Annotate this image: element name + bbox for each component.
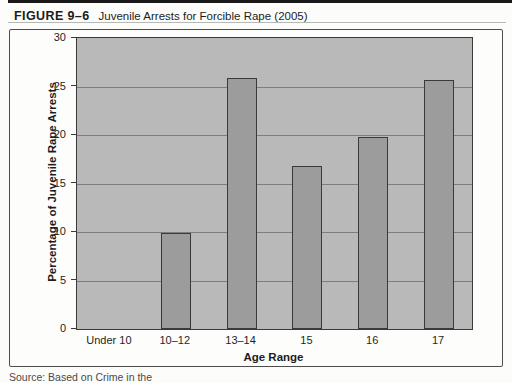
bar-10–12 [161, 233, 191, 329]
x-tick-label: 17 [405, 334, 471, 347]
plot-area [76, 37, 473, 330]
y-tick-mark [71, 279, 76, 280]
y-tick-mark [71, 37, 76, 38]
bar-13–14 [227, 78, 257, 329]
x-tick-label: Under 10 [76, 334, 142, 347]
y-tick-mark [71, 182, 76, 183]
gridline-25 [77, 87, 472, 88]
x-tick-label: 16 [339, 334, 405, 347]
bar-chart: Percentage of Juvenile Rape Arrests Age … [10, 30, 502, 366]
figure-box: Percentage of Juvenile Rape Arrests Age … [9, 29, 503, 367]
y-tick-mark [71, 231, 76, 232]
y-tick-label: 25 [10, 80, 66, 92]
y-tick-label: 0 [10, 322, 66, 334]
y-tick-mark [71, 85, 76, 86]
y-tick-label: 10 [10, 225, 66, 237]
y-tick-label: 15 [10, 177, 66, 189]
header-top-rule [8, 0, 512, 3]
y-tick-mark [71, 328, 76, 329]
figure-caption: Juvenile Arrests for Forcible Rape (2005… [99, 10, 308, 22]
y-tick-label: 20 [10, 128, 66, 140]
x-tick-label: 13–14 [208, 334, 274, 347]
gridline-5 [77, 281, 472, 282]
gridline-15 [77, 184, 472, 185]
x-tick-label: 15 [274, 334, 340, 347]
header-divider [8, 22, 506, 23]
bar-15 [292, 166, 322, 329]
figure-label: FIGURE 9–6 [14, 9, 90, 23]
bar-17 [424, 80, 454, 329]
bar-16 [358, 137, 388, 329]
y-tick-label: 30 [10, 31, 66, 43]
gridline-20 [77, 135, 472, 136]
y-tick-mark [71, 134, 76, 135]
x-axis-title: Age Range [76, 351, 471, 363]
y-tick-label: 5 [10, 274, 66, 286]
source-caption-clipped: Source: Based on Crime in the [9, 371, 152, 383]
gridline-10 [77, 232, 472, 233]
x-tick-label: 10–12 [142, 334, 208, 347]
